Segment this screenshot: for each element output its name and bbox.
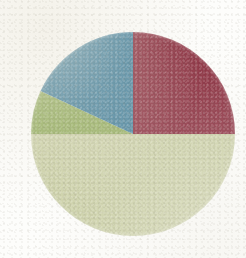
pie-chart-screenshot bbox=[0, 0, 246, 258]
pie-chart-figure bbox=[31, 32, 235, 236]
pie-slice-pale-sage-green bbox=[31, 134, 235, 236]
pie-slice-dark-red bbox=[133, 32, 235, 134]
pie-chart-svg bbox=[31, 32, 235, 236]
pie-slice-group bbox=[31, 32, 235, 236]
